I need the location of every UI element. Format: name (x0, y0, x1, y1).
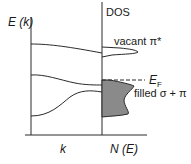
y-axis-label: E (k) (8, 16, 33, 28)
vacant-pi-star-label: vacant π* (114, 36, 161, 47)
k-axis-label: k (60, 143, 66, 155)
dos-x-axis-label: N (E) (110, 143, 138, 155)
lower-band-curve (31, 91, 102, 116)
dos-title: DOS (106, 7, 130, 18)
filled-sigma-pi-dos (102, 80, 134, 117)
fermi-level-main: E (149, 73, 157, 87)
filled-sigma-pi-label: filled σ + π (134, 88, 187, 99)
upper-band-curve (31, 44, 102, 53)
middle-band-curve (31, 75, 102, 85)
vacant-pi-star-dos (102, 47, 138, 57)
